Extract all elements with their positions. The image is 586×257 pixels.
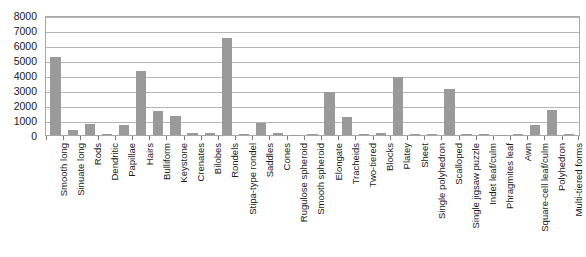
bar-slot	[338, 17, 355, 135]
bar-slot	[64, 17, 81, 135]
bar[interactable]	[222, 38, 232, 136]
bar-slot	[527, 17, 544, 135]
bar[interactable]	[136, 71, 146, 135]
bar-slot	[116, 17, 133, 135]
x-axis-label-slot: Sheet	[407, 141, 424, 253]
bar[interactable]	[376, 133, 386, 135]
bar[interactable]	[547, 110, 557, 136]
y-axis-tick-label: 2000	[14, 101, 37, 112]
y-axis-tick-label: 6000	[14, 41, 37, 52]
x-axis-label-slot: Polyhedron	[544, 141, 561, 253]
bar-slot	[475, 17, 492, 135]
bar-slot	[407, 17, 424, 135]
x-axis-label-slot: Rods	[80, 141, 97, 253]
x-axis-label-slot: Platey	[390, 141, 407, 253]
x-axis-label-slot: Rugulose spheroid	[287, 141, 304, 253]
x-axis-label-slot: Smooth long	[46, 141, 63, 253]
bar[interactable]	[564, 134, 574, 135]
bar[interactable]	[479, 134, 489, 135]
x-axis-category-label: Multi-tiered forms	[574, 143, 584, 216]
bar[interactable]	[513, 134, 523, 135]
x-axis-label-slot: Dendritic	[98, 141, 115, 253]
bar[interactable]	[102, 134, 112, 135]
bar-slot	[544, 17, 561, 135]
bar-slot	[184, 17, 201, 135]
x-axis-label-slot: Blocks	[373, 141, 390, 253]
x-axis-label-slot: Papillae	[115, 141, 132, 253]
x-axis-label-slot: Two-tiered	[355, 141, 372, 253]
x-axis-label-slot: Keystone	[166, 141, 183, 253]
bar[interactable]	[205, 133, 215, 135]
y-axis-tick-label: 8000	[14, 11, 37, 22]
bar-slot	[98, 17, 115, 135]
bar[interactable]	[50, 57, 60, 135]
bar-slot	[150, 17, 167, 135]
bar-slot	[253, 17, 270, 135]
bar-slot	[509, 17, 526, 135]
x-axis-label-slot: Awn	[510, 141, 527, 253]
bar[interactable]	[359, 134, 369, 135]
bar[interactable]	[187, 133, 197, 135]
bar[interactable]	[85, 124, 95, 135]
bar[interactable]	[324, 92, 334, 136]
bar-slot	[304, 17, 321, 135]
bar[interactable]	[410, 134, 420, 135]
x-axis-label-slot: Elongate	[321, 141, 338, 253]
bar[interactable]	[153, 111, 163, 135]
bar[interactable]	[427, 134, 437, 135]
x-axis-label-slot: Sinuate long	[63, 141, 80, 253]
bar-slot	[167, 17, 184, 135]
bar-series	[46, 17, 579, 135]
x-axis-label-slot: Single polyhedron	[424, 141, 441, 253]
x-axis-label-slot: Stipa-type rondel	[235, 141, 252, 253]
bar[interactable]	[119, 125, 129, 135]
y-axis-tick-label: 3000	[14, 86, 37, 97]
bar-slot	[235, 17, 252, 135]
bar-slot	[321, 17, 338, 135]
bar[interactable]	[342, 117, 352, 135]
x-axis-label-slot: Tracheids	[338, 141, 355, 253]
bar[interactable]	[170, 116, 180, 136]
x-axis-label-slot: Smooth spheroid	[304, 141, 321, 253]
bar[interactable]	[256, 123, 266, 135]
x-axis-label-slot: Indet leaf/culm	[476, 141, 493, 253]
bar[interactable]	[239, 134, 249, 135]
bar-slot	[372, 17, 389, 135]
x-axis-label-slot: Single jigsaw puzzle	[459, 141, 476, 253]
bar[interactable]	[68, 130, 78, 135]
x-axis-label-slot: Bilobes	[201, 141, 218, 253]
bar-slot	[561, 17, 578, 135]
y-axis-tick-label: 7000	[14, 26, 37, 37]
bar[interactable]	[273, 133, 283, 135]
plot-area	[45, 16, 580, 136]
x-axis-label-slot: Bulliform	[149, 141, 166, 253]
x-axis-label-slot: Square-cell leaf/culm	[527, 141, 544, 253]
x-axis-category-labels: Smooth longSinuate longRodsDendriticPapi…	[45, 141, 580, 253]
x-axis-label-slot: Phragmites leaf	[493, 141, 510, 253]
bar-slot	[441, 17, 458, 135]
bar[interactable]	[461, 134, 471, 135]
bar-slot	[424, 17, 441, 135]
bar-slot	[390, 17, 407, 135]
y-axis-tick-label: 5000	[14, 56, 37, 67]
x-axis-label-slot: Scalloped	[441, 141, 458, 253]
bar-slot	[81, 17, 98, 135]
bar-slot	[133, 17, 150, 135]
x-axis-label-slot: Rondels	[218, 141, 235, 253]
x-axis-label-slot: Saddles	[252, 141, 269, 253]
bar-chart: 010002000300040005000600070008000 Smooth…	[0, 0, 586, 257]
y-axis-tick-label: 4000	[14, 71, 37, 82]
bar[interactable]	[393, 77, 403, 136]
bar[interactable]	[444, 89, 454, 136]
bar-slot	[355, 17, 372, 135]
bar[interactable]	[307, 134, 317, 135]
bar-slot	[201, 17, 218, 135]
y-axis-tick-labels: 010002000300040005000600070008000	[0, 16, 41, 136]
bar-slot	[287, 17, 304, 135]
x-axis-label-slot: Hairs	[132, 141, 149, 253]
bar[interactable]	[530, 125, 540, 136]
bar-slot	[458, 17, 475, 135]
bar-slot	[47, 17, 64, 135]
bar-slot	[218, 17, 235, 135]
x-axis-label-slot: Cones	[269, 141, 286, 253]
